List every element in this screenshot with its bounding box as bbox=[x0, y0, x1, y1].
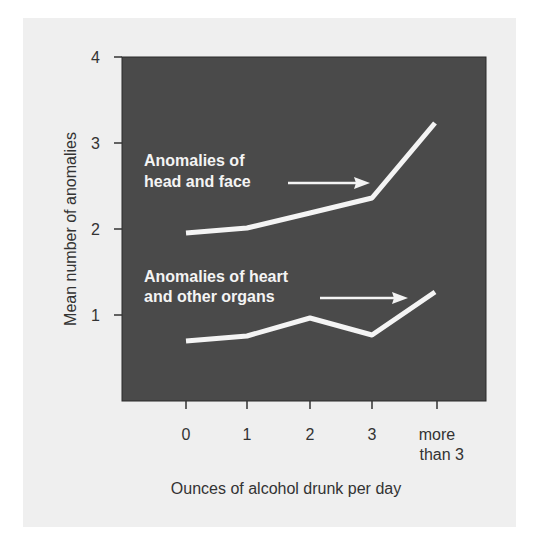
y-tick-3: 3 bbox=[91, 135, 100, 152]
x-tick-more: more bbox=[419, 426, 456, 443]
x-tick-0: 0 bbox=[182, 426, 191, 443]
y-tick-4: 4 bbox=[91, 49, 100, 66]
y-axis bbox=[114, 57, 122, 315]
x-axis-title: Ounces of alcohol drunk per day bbox=[171, 480, 401, 497]
annotation-heart-line2: and other organs bbox=[144, 288, 275, 305]
annotation-heart-line1: Anomalies of heart bbox=[144, 268, 289, 285]
y-axis-title: Mean number of anomalies bbox=[62, 132, 79, 326]
x-tick-than3: than 3 bbox=[420, 446, 465, 463]
plot-area bbox=[122, 57, 486, 401]
y-tick-2: 2 bbox=[91, 221, 100, 238]
annotation-head-face-line2: head and face bbox=[144, 173, 251, 190]
y-tick-1: 1 bbox=[91, 307, 100, 324]
annotation-head-face-line1: Anomalies of bbox=[144, 152, 245, 169]
line-chart: 4 3 2 1 0 1 2 3 more than 3 Ounces of al… bbox=[0, 0, 535, 541]
x-axis bbox=[186, 401, 437, 409]
x-tick-1: 1 bbox=[243, 426, 252, 443]
x-tick-3: 3 bbox=[368, 426, 377, 443]
x-tick-2: 2 bbox=[306, 426, 315, 443]
